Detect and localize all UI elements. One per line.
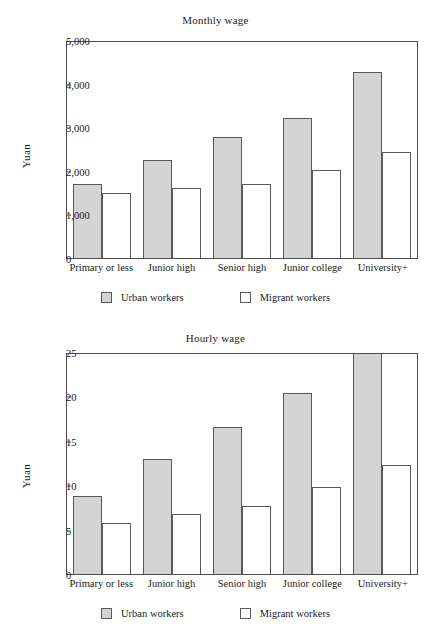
bar-migrant — [102, 193, 131, 258]
bar-migrant — [382, 152, 411, 258]
bar-groups-hourly — [67, 354, 417, 574]
bar-urban — [143, 160, 172, 258]
y-tick-mark — [66, 441, 71, 442]
bar-group — [347, 42, 417, 258]
legend-item-migrant-monthly: Migrant workers — [240, 292, 330, 303]
bar-migrant — [312, 487, 341, 574]
bar-urban — [213, 427, 242, 574]
x-axis-label: Senior high — [207, 578, 277, 589]
y-tick-label: 25 — [66, 348, 72, 359]
x-axis-label: Junior high — [136, 262, 206, 273]
chart-panel-hourly-wage: Hourly wage Yuan 0510152025 Primary or l… — [0, 320, 431, 640]
bar-migrant — [312, 170, 341, 258]
bar-group — [277, 42, 347, 258]
bar-groups-monthly — [67, 42, 417, 258]
y-tick-label: 5,000 — [66, 36, 72, 47]
legend-swatch-migrant-icon — [240, 292, 251, 303]
bar-migrant — [102, 523, 131, 575]
x-axis-label: Senior high — [207, 262, 277, 273]
bar-group — [137, 354, 207, 574]
bar-urban — [283, 393, 312, 574]
y-axis-label-monthly: Yuan — [20, 126, 32, 186]
plot-area-monthly — [66, 41, 418, 259]
bar-urban — [73, 496, 102, 574]
x-axis-label: Junior college — [277, 578, 347, 589]
bar-urban — [283, 118, 312, 258]
legend-label-urban: Urban workers — [121, 608, 184, 619]
x-axis-label: Junior college — [277, 262, 347, 273]
bar-group — [277, 354, 347, 574]
bar-migrant — [172, 514, 201, 574]
bar-group — [207, 354, 277, 574]
bar-migrant — [172, 188, 201, 258]
bar-group — [347, 354, 417, 574]
legend-hourly: Urban workers Migrant workers — [0, 608, 431, 619]
y-tick-mark — [66, 84, 71, 85]
bar-group — [207, 42, 277, 258]
plot-wrap-monthly: Yuan 01,0002,0003,0004,0005,000 Primary … — [0, 0, 431, 300]
bar-urban — [73, 184, 102, 258]
bar-urban — [353, 72, 382, 258]
figure-root: Monthly wage Yuan 01,0002,0003,0004,0005… — [0, 0, 431, 640]
x-axis-label: Junior high — [136, 578, 206, 589]
x-axis-label: Primary or less — [66, 578, 136, 589]
x-axis-label: University+ — [348, 578, 418, 589]
plot-area-hourly — [66, 353, 418, 575]
bar-urban — [213, 137, 242, 258]
y-tick-mark — [66, 171, 71, 172]
x-axis-labels-hourly: Primary or lessJunior highSenior highJun… — [66, 578, 418, 589]
bar-group — [67, 42, 137, 258]
y-tick-mark — [66, 486, 71, 487]
bar-migrant — [382, 465, 411, 574]
bar-migrant — [242, 184, 271, 258]
y-tick-mark — [66, 215, 71, 216]
x-axis-label: University+ — [348, 262, 418, 273]
y-axis-label-hourly: Yuan — [20, 446, 32, 506]
plot-wrap-hourly: Yuan 0510152025 Primary or lessJunior hi… — [0, 320, 431, 620]
chart-panel-monthly-wage: Monthly wage Yuan 01,0002,0003,0004,0005… — [0, 0, 431, 320]
legend-swatch-urban-icon — [101, 608, 112, 619]
bar-urban — [353, 353, 382, 574]
legend-item-urban-monthly: Urban workers — [101, 292, 184, 303]
y-tick-mark — [66, 530, 71, 531]
y-tick-mark — [66, 128, 71, 129]
x-axis-label: Primary or less — [66, 262, 136, 273]
legend-swatch-urban-icon — [101, 292, 112, 303]
x-axis-labels-monthly: Primary or lessJunior highSenior highJun… — [66, 262, 418, 273]
bar-migrant — [242, 506, 271, 574]
legend-label-migrant: Migrant workers — [260, 608, 330, 619]
legend-item-urban-hourly: Urban workers — [101, 608, 184, 619]
legend-label-migrant: Migrant workers — [260, 292, 330, 303]
bar-urban — [143, 459, 172, 574]
legend-item-migrant-hourly: Migrant workers — [240, 608, 330, 619]
legend-monthly: Urban workers Migrant workers — [0, 292, 431, 303]
legend-swatch-migrant-icon — [240, 608, 251, 619]
bar-group — [137, 42, 207, 258]
bar-group — [67, 354, 137, 574]
y-tick-mark — [66, 397, 71, 398]
legend-label-urban: Urban workers — [121, 292, 184, 303]
